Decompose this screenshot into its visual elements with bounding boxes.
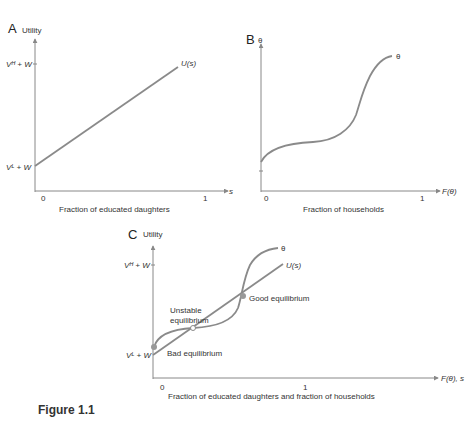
panel-c-x-symbol: F(θ), s [441, 374, 464, 383]
panel-c-theta-label: θ [281, 244, 286, 253]
panel-c-us-label: U(s) [286, 261, 301, 270]
unstable-equilibrium-label-2: equilibrium [170, 316, 209, 325]
panel-c-ytick-vh: Vᴴ + W [124, 261, 151, 270]
panel-b-ylabel: θ [258, 36, 263, 45]
panel-a-xtick-0: 0 [41, 194, 46, 203]
panel-c-letter: C [128, 227, 137, 242]
panel-b: B θ θ F(θ) 0 1 Fraction of households [246, 32, 457, 214]
bad-equilibrium-point [151, 344, 157, 350]
panel-a: A Utility Vᴴ + W Vᴸ + W U(s) s 0 1 Fract… [6, 21, 233, 214]
panel-a-ytick-vh: Vᴴ + W [6, 60, 33, 69]
panel-c-xlabel: Fraction of educated daughters and fract… [168, 392, 375, 401]
unstable-equilibrium-point [191, 326, 196, 331]
panel-b-letter: B [246, 32, 255, 47]
panel-a-letter: A [8, 21, 17, 36]
panel-c-ytick-vl: Vᴸ + W [126, 351, 152, 360]
panel-b-xlabel: Fraction of households [303, 205, 384, 214]
panel-a-x-symbol: s [229, 187, 233, 196]
panel-b-theta-curve [261, 56, 392, 162]
panel-a-xtick-1: 1 [203, 194, 208, 203]
panel-a-xlabel: Fraction of educated daughters [59, 205, 170, 214]
panel-b-xtick-1: 1 [420, 194, 425, 203]
panel-b-x-symbol: F(θ) [442, 187, 457, 196]
panel-c-xtick-0: 0 [160, 383, 165, 392]
figure-caption: Figure 1.1 [38, 403, 95, 417]
figure-canvas: A Utility Vᴴ + W Vᴸ + W U(s) s 0 1 Fract… [0, 0, 476, 423]
bad-equilibrium-label: Bad equilibrium [167, 349, 222, 358]
panel-c-xtick-1: 1 [303, 383, 308, 392]
panel-c: C Utility Vᴴ + W Vᴸ + W θ U(s) Good equi… [124, 227, 464, 401]
panel-c-ylabel: Utility [143, 230, 163, 239]
unstable-equilibrium-label-1: Unstable [170, 306, 202, 315]
panel-a-ylabel: Utility [22, 26, 42, 35]
panel-b-xtick-0: 0 [264, 194, 269, 203]
panel-b-curve-label: θ [396, 52, 401, 61]
panel-a-us-label: U(s) [181, 59, 196, 68]
panel-a-ytick-vl: Vᴸ + W [6, 163, 32, 172]
good-equilibrium-point [240, 293, 246, 299]
panel-a-us-line [35, 67, 178, 166]
good-equilibrium-label: Good equilibrium [249, 294, 310, 303]
